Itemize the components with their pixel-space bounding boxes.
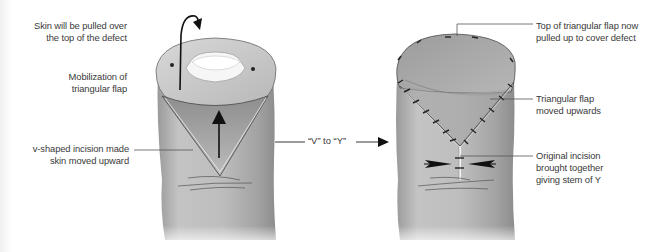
label-v-shaped-incision: v-shaped incision made skin moved upward xyxy=(10,143,129,167)
right-finger xyxy=(395,34,520,245)
label-original-incision-stem: Original incision brought together givin… xyxy=(536,150,664,186)
transition-arrowhead-icon xyxy=(378,137,389,147)
label-top-of-flap-pulled-up: Top of triangular flap now pulled up to … xyxy=(536,20,664,44)
leader-line-top-flap xyxy=(457,24,533,36)
label-triangular-flap-moved: Triangular flap moved upwards xyxy=(536,93,664,117)
left-finger xyxy=(155,16,280,245)
label-mobilization-of-flap: Mobilization of triangular flap xyxy=(20,71,127,95)
label-v-to-y: “V” to “Y” xyxy=(306,135,348,146)
label-skin-pulled-over-defect: Skin will be pulled over the top of the … xyxy=(20,20,127,44)
